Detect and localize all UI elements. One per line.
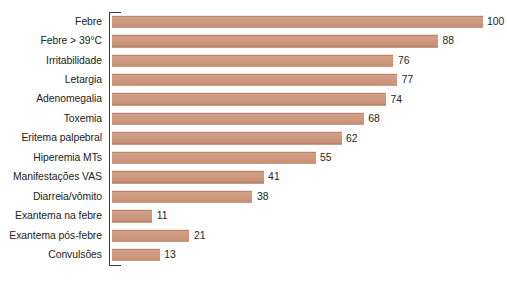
category-label: Exantema pós-febre [0,230,102,242]
bar-value-label: 100 [487,16,504,28]
bar-value-label: 74 [391,93,403,105]
category-label: Irritabilidade [0,55,102,67]
bar-value-label: 68 [368,113,380,125]
bar [112,249,160,261]
bar-value-label: 11 [157,210,168,222]
bar [112,15,483,27]
bar-value-label: 38 [257,191,269,203]
bar-track: 21 [112,229,206,241]
bar-row: Hiperemia MTs55 [0,148,507,167]
bar [112,210,153,222]
category-label: Convulsões [0,249,102,261]
axis-tick-bottom [109,265,121,266]
bar [112,191,253,203]
bar [112,132,342,144]
bar-track: 62 [112,132,358,144]
bar-row: Letargia77 [0,70,507,89]
bar-value-label: 77 [402,74,414,86]
bar-row: Febre100 [0,12,507,31]
bar-row: Toxemia68 [0,109,507,128]
bar-track: 76 [112,54,410,66]
category-label: Exantema na febre [0,210,102,222]
bar-row: Manifestações VAS41 [0,168,507,187]
bar-row: Exantema na febre11 [0,207,507,226]
category-label: Letargia [0,74,102,86]
bar [112,54,394,66]
bar-row: Exantema pós-febre21 [0,226,507,245]
bar-track: 77 [112,74,414,86]
bar-value-label: 41 [268,171,280,183]
bar [112,229,190,241]
category-label: Hiperemia MTs [0,152,102,164]
bar [112,74,398,86]
category-label: Febre [0,16,102,28]
bar-track: 68 [112,113,380,125]
bar [112,152,316,164]
bar-value-label: 55 [320,152,332,164]
bar [112,113,364,125]
bar-row: Diarreia/vômito38 [0,187,507,206]
category-label: Diarreia/vômito [0,191,102,203]
bar-track: 55 [112,152,332,164]
plot-area: Febre100Febre > 39°C88Irritabilidade76Le… [0,0,507,284]
bar-row: Irritabilidade76 [0,51,507,70]
bar-track: 38 [112,191,269,203]
bar-value-label: 21 [194,230,206,242]
bar-track: 88 [112,35,455,47]
category-label: Eritema palpebral [0,132,102,144]
bar-row: Eritema palpebral62 [0,129,507,148]
bar-track: 41 [112,171,280,183]
bar-track: 100 [112,15,505,27]
bar-value-label: 13 [164,249,176,261]
bar-value-label: 88 [442,35,454,47]
category-label: Manifestações VAS [0,171,102,183]
bar-row: Convulsões13 [0,245,507,264]
bar-chart: Febre100Febre > 39°C88Irritabilidade76Le… [0,0,507,284]
bar [112,93,387,105]
category-label: Adenomegalia [0,93,102,105]
bar-row: Adenomegalia74 [0,90,507,109]
bar-value-label: 76 [398,55,410,67]
bar [112,35,438,47]
bar-track: 11 [112,210,168,222]
category-label: Toxemia [0,113,102,125]
bar-value-label: 62 [346,132,358,144]
bar [112,171,264,183]
bar-row: Febre > 39°C88 [0,31,507,50]
bar-track: 74 [112,93,403,105]
category-label: Febre > 39°C [0,35,102,47]
bar-track: 13 [112,249,176,261]
